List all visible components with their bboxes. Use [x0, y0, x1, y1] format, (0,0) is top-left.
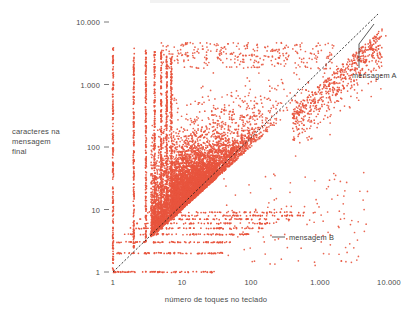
y-tick-10000: 10.000	[76, 18, 109, 27]
y-tick-label: 1.000	[81, 81, 101, 90]
x-tick-label: 10.000	[377, 278, 401, 287]
annotation-b-label: mensagem B	[289, 233, 334, 242]
data-points-group	[112, 28, 387, 273]
scatter-chart: 10.000 1.000 100 10 1 1 10 100	[0, 0, 418, 315]
y-axis: 10.000 1.000 100 10 1	[76, 18, 109, 277]
x-tick-label: 10	[178, 278, 187, 287]
x-axis-title: número de toques no teclado	[165, 295, 267, 304]
y-tick-label: 1	[96, 268, 100, 277]
y-axis-title: caracteres na mensagem final	[12, 127, 61, 156]
y-axis-title-line-2: mensagem	[12, 137, 51, 146]
y-axis-title-line-3: final	[12, 147, 27, 156]
x-tick-label: 1.000	[310, 278, 330, 287]
y-tick-label: 100	[87, 143, 100, 152]
y-tick-label: 10.000	[76, 18, 100, 27]
plot-canvas: 10.000 1.000 100 10 1 1 10 100	[0, 0, 418, 315]
y-tick-label: 10	[91, 206, 100, 215]
x-tick-label: 1	[111, 278, 115, 287]
annotation-mensagem-b: mensagem B	[272, 233, 334, 242]
y-axis-title-line-1: caracteres na	[12, 127, 61, 136]
y-tick-1000: 1.000	[81, 81, 110, 90]
x-axis: 1 10 100 1.000 10.000	[111, 278, 401, 287]
y-tick-10: 10	[91, 206, 109, 215]
cropped-title-strip	[150, 0, 290, 3]
y-tick-100: 100	[87, 143, 109, 152]
x-tick-label: 100	[245, 278, 258, 287]
annotation-a-label: mensagem A	[352, 71, 397, 80]
y-tick-1: 1	[96, 268, 109, 277]
